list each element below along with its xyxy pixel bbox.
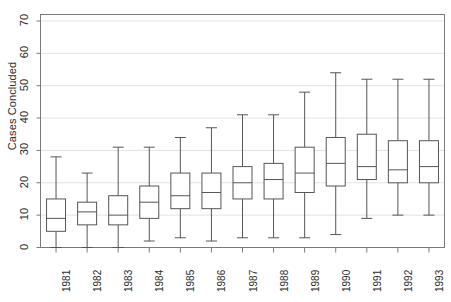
x-tick-label: 1982: [92, 258, 103, 292]
y-tick-label: 10: [18, 203, 30, 225]
box-iqr: [295, 147, 314, 192]
box-plot-item: [78, 173, 97, 247]
box-plot-item: [140, 147, 159, 241]
box-iqr: [357, 134, 376, 179]
x-tick-label: 1987: [248, 258, 259, 292]
box-plot-item: [357, 79, 376, 218]
box-iqr: [109, 196, 128, 225]
box-iqr: [264, 163, 283, 199]
box-iqr: [78, 202, 97, 225]
y-tick-label: 70: [18, 9, 30, 31]
box-plot-item: [47, 157, 66, 248]
y-tick-label: 0: [18, 236, 30, 258]
y-tick-label: 30: [18, 138, 30, 160]
x-tick-label: 1988: [279, 258, 290, 292]
y-axis-title: Cases Concluded: [6, 56, 18, 156]
box-plot-item: [233, 115, 252, 238]
x-tick-label: 1986: [216, 258, 227, 292]
box-plot-item: [326, 73, 345, 235]
x-tick-label: 1993: [434, 258, 445, 292]
x-tick-label: 1983: [123, 258, 134, 292]
box-plot-item: [171, 137, 190, 237]
y-tick-label: 40: [18, 106, 30, 128]
box-iqr: [326, 137, 345, 186]
box-plot-item: [202, 128, 221, 241]
y-tick-label: 60: [18, 41, 30, 63]
x-tick-label: 1984: [154, 258, 165, 292]
box-plot-item: [264, 115, 283, 238]
box-iqr: [202, 173, 221, 209]
x-tick-label: 1991: [372, 258, 383, 292]
x-tick-label: 1989: [310, 258, 321, 292]
box-plot-item: [109, 147, 128, 247]
x-tick-label: 1990: [341, 258, 352, 292]
box-iqr: [388, 141, 407, 183]
box-plot-item: [388, 79, 407, 215]
box-iqr: [419, 141, 438, 183]
x-tick-label: 1992: [403, 258, 414, 292]
x-tick-label: 1985: [185, 258, 196, 292]
plot-area: [0, 0, 451, 302]
box-iqr: [171, 173, 190, 209]
box-iqr: [47, 199, 66, 231]
box-plot-item: [419, 79, 438, 215]
y-tick-label: 20: [18, 171, 30, 193]
x-tick-label: 1981: [61, 258, 72, 292]
box-plot-chart: Cases Concluded 010203040506070 19811982…: [0, 0, 451, 302]
box-plot-item: [295, 92, 314, 238]
y-tick-label: 50: [18, 74, 30, 96]
